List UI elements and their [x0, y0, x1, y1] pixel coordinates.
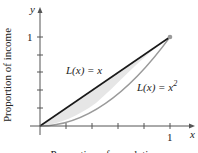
x-axis-symbol: x [189, 128, 195, 140]
y-axis-arrow-icon [38, 7, 43, 13]
lorenz-chart: y x 1 1 L(x) = x L(x) = x2 Proportion of… [0, 0, 198, 153]
line-label: L(x) = x [65, 64, 102, 77]
x-axis-title: Proportion of population [51, 148, 160, 153]
x-tick-label-1: 1 [167, 131, 173, 143]
y-tick-label-1: 1 [27, 31, 33, 43]
endpoint-marker [168, 35, 173, 40]
curve-label: L(x) = x2 [136, 79, 177, 94]
y-axis-title: Proportion of income [1, 28, 13, 122]
y-axis-symbol: y [29, 3, 35, 15]
